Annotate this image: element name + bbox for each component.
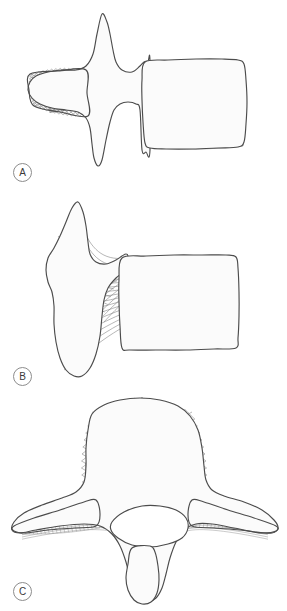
- panel-label-a: A: [13, 163, 32, 182]
- panel-a: A: [0, 0, 287, 196]
- panel-c: [0, 392, 287, 611]
- panel-b: [0, 196, 287, 392]
- panel-label-b: B: [13, 367, 32, 386]
- panel-b-illustration: [0, 196, 287, 392]
- panel-c-illustration: [0, 392, 287, 611]
- panel-a-illustration: [0, 0, 287, 196]
- panel-label-c: C: [13, 582, 32, 601]
- figure-root: A B C: [0, 0, 287, 611]
